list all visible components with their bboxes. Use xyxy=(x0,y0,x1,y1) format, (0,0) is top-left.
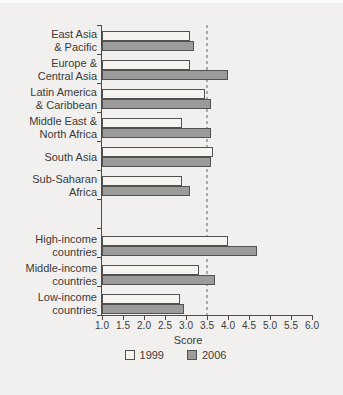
category-label-8: Low-incomecountries xyxy=(2,291,97,317)
bar-1999-8 xyxy=(102,294,180,304)
x-axis-title: Score xyxy=(138,334,238,347)
category-label-4: South Asia xyxy=(2,151,97,164)
bar-2006-0 xyxy=(102,41,194,51)
bar-1999-1 xyxy=(102,60,190,70)
category-label-1: Europe &Central Asia xyxy=(2,57,97,83)
y-tick xyxy=(97,257,102,258)
bar-2006-8 xyxy=(102,304,184,314)
y-tick xyxy=(97,54,102,55)
category-label-3: Middle East &North Africa xyxy=(2,115,97,141)
y-tick xyxy=(97,25,102,26)
y-tick xyxy=(97,199,102,200)
category-label-7: Middle-incomecountries xyxy=(2,262,97,288)
bar-1999-2 xyxy=(102,89,205,99)
bar-2006-1 xyxy=(102,70,228,80)
top-margin-strip xyxy=(0,0,343,3)
bar-1999-3 xyxy=(102,118,182,128)
reference-dashed-line xyxy=(206,25,208,315)
legend-item-2006: 2006 xyxy=(187,349,226,361)
bar-1999-7 xyxy=(102,265,199,275)
y-tick xyxy=(97,83,102,84)
legend-label-2006: 2006 xyxy=(202,349,226,361)
y-tick xyxy=(97,141,102,142)
legend-swatch-2006 xyxy=(187,350,197,360)
category-label-5: Sub-SaharanAfrica xyxy=(2,173,97,199)
bar-2006-2 xyxy=(102,99,211,109)
bar-2006-7 xyxy=(102,275,215,285)
plot-area xyxy=(101,25,313,316)
legend: 1999 2006 xyxy=(95,349,256,361)
bar-2006-4 xyxy=(102,157,211,167)
y-tick xyxy=(97,286,102,287)
bar-chart-figure: Score 1999 2006 East Asia& PacificEurope… xyxy=(0,0,343,395)
bar-1999-5 xyxy=(102,176,182,186)
bar-1999-0 xyxy=(102,31,190,41)
bar-1999-4 xyxy=(102,147,213,157)
bar-2006-6 xyxy=(102,246,257,256)
x-tick-label: 6.0 xyxy=(300,320,324,331)
legend-item-1999: 1999 xyxy=(125,349,164,361)
bar-2006-3 xyxy=(102,128,211,138)
y-tick xyxy=(97,228,102,229)
y-tick xyxy=(97,315,102,316)
category-label-6: High-incomecountries xyxy=(2,233,97,259)
category-label-0: East Asia& Pacific xyxy=(2,28,97,54)
bar-1999-6 xyxy=(102,236,228,246)
y-tick xyxy=(97,112,102,113)
legend-label-1999: 1999 xyxy=(140,349,164,361)
legend-swatch-1999 xyxy=(125,350,135,360)
bar-2006-5 xyxy=(102,186,190,196)
category-label-2: Latin America& Caribbean xyxy=(2,86,97,112)
y-tick xyxy=(97,170,102,171)
